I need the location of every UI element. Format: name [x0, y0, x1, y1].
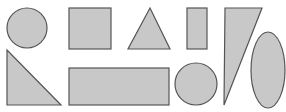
- circle-1: [7, 8, 47, 48]
- square: [69, 8, 111, 49]
- tall-rectangle: [187, 8, 207, 49]
- circle-2: [175, 63, 217, 105]
- triangle: [128, 8, 170, 49]
- shapes-canvas: [0, 0, 286, 112]
- ellipse: [251, 32, 285, 108]
- wide-rectangle: [69, 68, 169, 105]
- right-triangle-bottom: [7, 50, 61, 105]
